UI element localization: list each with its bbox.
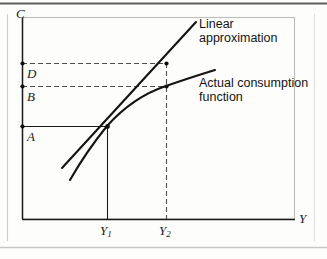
y-axis-label: Y [299, 211, 306, 227]
x-tick-label-y1: Y1 [100, 223, 112, 239]
x-tick-label-y2: Y2 [159, 223, 171, 239]
marker-d-on-line [164, 61, 168, 65]
annotation-linear-approximation-line1: Linear [199, 17, 278, 31]
value-label-d: D [27, 66, 36, 82]
figure-canvas: C Y D B A Y1 Y2 Linear approximation Act… [0, 0, 327, 259]
marker-tangency-point [105, 124, 110, 129]
marker-a-axis [20, 124, 24, 128]
x-tick-y1-subscript: 1 [107, 229, 112, 239]
marker-b-on-curve [164, 84, 168, 88]
x-tick-y2-subscript: 2 [166, 229, 171, 239]
marker-b-axis [20, 84, 24, 88]
value-label-b: B [27, 89, 35, 105]
annotation-linear-approximation-line2: approximation [199, 31, 278, 45]
annotation-actual-consumption-line1: Actual consumption [199, 76, 308, 90]
annotation-actual-consumption-line2: function [199, 90, 308, 104]
plot-frame [23, 18, 295, 220]
annotation-linear-approximation: Linear approximation [199, 17, 278, 45]
value-label-a: A [27, 129, 35, 145]
linear-approximation-line [62, 22, 196, 168]
marker-d-axis [20, 61, 24, 65]
annotation-actual-consumption-function: Actual consumption function [199, 76, 308, 104]
c-axis-label: C [16, 6, 25, 22]
